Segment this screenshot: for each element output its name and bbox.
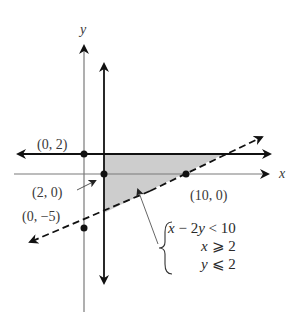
- pointer-arrow-region: [138, 190, 158, 244]
- x-axis-label: x: [278, 166, 286, 181]
- label-point-0-neg5: (0, −5): [22, 209, 61, 225]
- inequality-3: y ⩽ 2: [168, 255, 236, 273]
- point-2-0: [101, 171, 108, 178]
- pointer-arrow-2-0: [77, 181, 95, 190]
- inequality-system: x − 2y < 10 x ⩾ 2 y ⩽ 2: [168, 219, 236, 273]
- inequality-graph: y x (0, 2) (2, 0) (10, 0) (0, −5): [0, 0, 294, 316]
- inequality-1: x − 2y < 10: [168, 219, 236, 237]
- label-point-0-2: (0, 2): [37, 137, 68, 153]
- label-point-10-0: (10, 0): [190, 188, 228, 204]
- inequality-2: x ⩾ 2: [168, 237, 236, 255]
- label-point-2-0: (2, 0): [32, 185, 63, 201]
- point-10-0: [183, 171, 190, 178]
- point-0-neg5: [81, 225, 88, 232]
- y-axis-label: y: [78, 22, 87, 37]
- point-0-2: [81, 151, 88, 158]
